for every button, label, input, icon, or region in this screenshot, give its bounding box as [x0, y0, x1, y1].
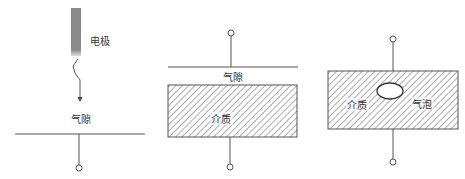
- dielectric-label: 介质: [211, 114, 231, 125]
- panel-needle-plate: 电极 气隙: [15, 8, 145, 171]
- terminal-icon: [390, 159, 396, 165]
- terminal-icon: [227, 164, 233, 170]
- gap-label: 气隙: [71, 113, 91, 125]
- electrode: [71, 8, 81, 50]
- electrode-label: 电极: [90, 35, 110, 47]
- gap-label: 气隙: [223, 71, 243, 83]
- dielectric-block: [168, 85, 297, 137]
- electrode-tip: [71, 50, 81, 56]
- terminal-icon: [228, 30, 234, 36]
- discharge-path: [73, 59, 80, 98]
- diagram-canvas: 电极 气隙 气隙 介质 介质 气泡: [0, 0, 465, 179]
- arrow-head-icon: [78, 97, 83, 102]
- panel-gap-dielectric: 气隙 介质: [168, 30, 298, 170]
- terminal-icon: [390, 36, 396, 42]
- bubble-label: 气泡: [412, 98, 432, 110]
- panel-dielectric-bubble: 介质 气泡: [328, 36, 458, 165]
- dielectric-label: 介质: [347, 100, 367, 111]
- terminal-icon: [76, 165, 82, 171]
- gas-bubble: [377, 83, 403, 99]
